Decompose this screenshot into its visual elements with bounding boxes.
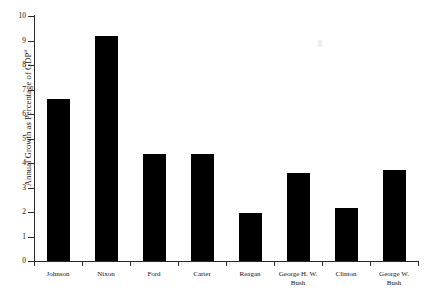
y-axis-tick: [28, 114, 34, 115]
x-axis-tick: [34, 261, 35, 266]
bar: [143, 154, 166, 261]
bar: [239, 213, 262, 261]
x-axis-tick: [82, 261, 83, 266]
x-axis-tick: [130, 261, 131, 266]
y-axis-tick-label: 3: [14, 184, 26, 192]
y-axis-tick-label: 6: [14, 110, 26, 118]
y-axis-tick-label: 7: [14, 86, 26, 94]
bar-chart-figure: Annual Growth as Percentage of GDPa 0123…: [0, 0, 429, 300]
y-axis-tick: [28, 90, 34, 91]
bar: [47, 99, 70, 261]
y-axis-tick: [28, 212, 34, 213]
y-axis-tick-label: 0: [14, 257, 26, 265]
x-axis-category-label: Nixon: [82, 270, 130, 279]
y-axis-tick: [28, 139, 34, 140]
y-axis-tick-label: 9: [14, 37, 26, 45]
y-axis-tick: [28, 16, 34, 17]
y-axis-title-superscript: a: [22, 50, 28, 53]
y-axis-tick-label: 2: [14, 208, 26, 216]
y-axis-tick-label: 10: [14, 12, 26, 20]
bar: [335, 208, 358, 261]
y-axis-tick-label: 5: [14, 135, 26, 143]
x-axis-tick: [178, 261, 179, 266]
x-axis-tick: [370, 261, 371, 266]
y-axis-tick-label: 4: [14, 159, 26, 167]
bar: [383, 170, 406, 261]
bar: [287, 173, 310, 261]
bar: [191, 154, 214, 261]
x-axis-category-label: Reagan: [226, 270, 274, 279]
scan-artifact-speckle: [318, 40, 322, 47]
x-axis-tick: [226, 261, 227, 266]
y-axis-tick-label: 8: [14, 61, 26, 69]
y-axis-line: [34, 15, 35, 262]
x-axis-category-label: George H. W. Bush: [274, 270, 322, 287]
x-axis-category-label: Johnson: [34, 270, 82, 279]
y-axis-tick: [28, 237, 34, 238]
x-axis-tick: [274, 261, 275, 266]
x-axis-category-label: Carter: [178, 270, 226, 279]
x-axis-category-label: George W. Bush: [370, 270, 418, 287]
y-axis-tick: [28, 41, 34, 42]
x-axis-tick: [418, 261, 419, 266]
y-axis-tick: [28, 65, 34, 66]
y-axis-tick-label: 1: [14, 233, 26, 241]
x-axis-tick: [322, 261, 323, 266]
bar: [95, 36, 118, 261]
y-axis-tick: [28, 163, 34, 164]
y-axis-tick: [28, 188, 34, 189]
x-axis-category-label: Clinton: [322, 270, 370, 279]
x-axis-category-label: Ford: [130, 270, 178, 279]
